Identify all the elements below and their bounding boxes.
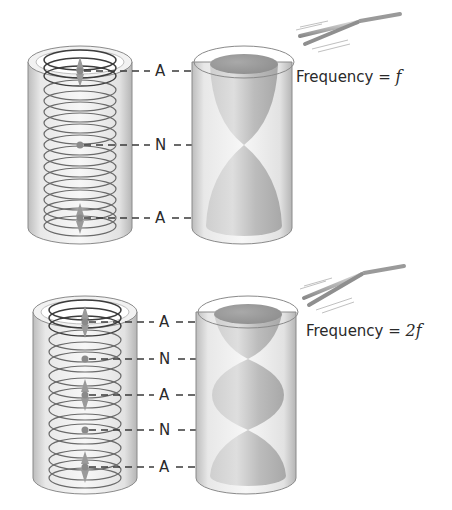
- diagram-second-harmonic: A N A N A Frequency = 2f: [33, 266, 425, 494]
- frequency-label: Frequency = f: [296, 67, 405, 86]
- marker-label-antinode: A: [159, 458, 170, 476]
- air-column-tube-right: [196, 296, 298, 494]
- marker-label-antinode: A: [159, 313, 170, 331]
- slinky-tube-left: [28, 46, 132, 244]
- marker-label-node: N: [159, 421, 170, 439]
- node-dot-icon: [82, 427, 89, 434]
- marker-label-antinode: A: [155, 62, 166, 80]
- node-dot-icon: [77, 142, 84, 149]
- standing-wave-diagram: A N A Frequency = f: [0, 0, 452, 510]
- frequency-label: Frequency = 2f: [306, 321, 425, 340]
- marker-label-antinode: A: [155, 209, 166, 227]
- tuning-fork-icon: [296, 14, 400, 52]
- marker-label-node: N: [159, 350, 170, 368]
- slinky-tube-left: [33, 296, 137, 494]
- marker-label-node: N: [155, 136, 166, 154]
- marker-label-antinode: A: [159, 386, 170, 404]
- tuning-fork-icon: [300, 266, 404, 313]
- node-dot-icon: [82, 356, 89, 363]
- diagram-fundamental: A N A Frequency = f: [28, 14, 405, 244]
- air-column-tube-right: [192, 46, 294, 244]
